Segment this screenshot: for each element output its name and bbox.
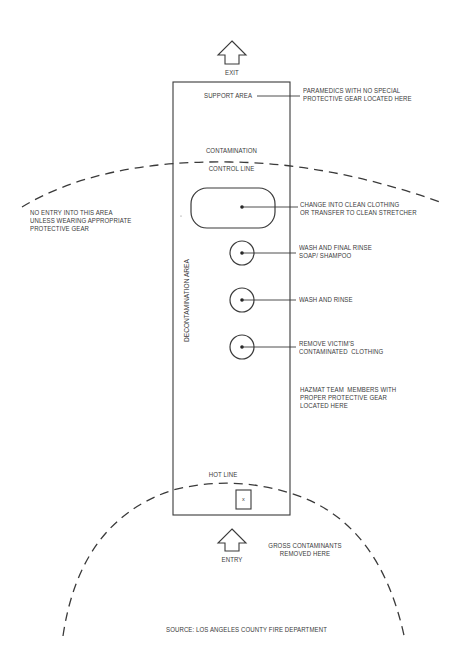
decontamination-area-label: DECONTAMINATION AREA (183, 259, 190, 342)
station-2-label-line2: SOAP/ SHAMPOO (299, 252, 351, 260)
hot-line-box-marker: x (237, 495, 251, 503)
station-1-label-line2: OR TRANSFER TO CLEAN STRETCHER (300, 209, 417, 217)
station-3-label: WASH AND RINSE (299, 296, 353, 304)
hazmat-note-line2: PROPER PROTECTIVE GEAR (300, 394, 387, 402)
no-entry-note-line1: NO ENTRY INTO THIS AREA (30, 209, 113, 217)
paramedics-note-line1: PARAMEDICS WITH NO SPECIAL (303, 87, 400, 95)
station-4-label-line2: CONTAMINATED CLOTHING (299, 348, 383, 356)
exit-arrow-icon (218, 41, 246, 64)
source-caption: SOURCE: LOS ANGELES COUNTY FIRE DEPARTME… (166, 626, 327, 634)
hazmat-note-line1: HAZMAT TEAM MEMBERS WITH (300, 386, 396, 394)
hot-line-label: HOT LINE (195, 471, 250, 479)
exit-label: EXIT (214, 69, 251, 77)
paramedics-note-line2: PROTECTIVE GEAR LOCATED HERE (303, 95, 412, 103)
control-line-label: CONTROL LINE (178, 165, 286, 173)
speck (180, 215, 181, 216)
contamination-label: CONTAMINATION (178, 147, 286, 155)
station-change-clothing (191, 188, 275, 228)
entry-arrow-icon (218, 529, 246, 551)
station-2-label-line1: WASH AND FINAL RINSE (299, 244, 372, 252)
hazmat-note-line3: LOCATED HERE (300, 402, 348, 410)
no-entry-note-line3: PROTECTIVE GEAR (30, 225, 89, 233)
gross-note-line2: REMOVED HERE (254, 550, 355, 558)
gross-note-line1: GROSS CONTAMINANTS (254, 542, 355, 550)
no-entry-note-line2: UNLESS WEARING APPROPRIATE (30, 217, 131, 225)
entry-label: ENTRY (214, 556, 251, 564)
support-area-label: SUPPORT AREA (204, 92, 252, 100)
station-1-label-line1: CHANGE INTO CLEAN CLOTHING (300, 201, 399, 209)
station-4-label-line1: REMOVE VICTIM'S (299, 340, 354, 348)
